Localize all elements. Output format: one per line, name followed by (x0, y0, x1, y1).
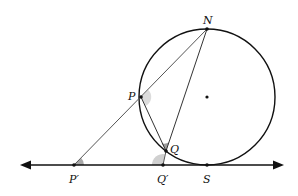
left-arrow-icon (20, 161, 31, 170)
label-s: S (203, 173, 211, 186)
point-n (205, 27, 209, 31)
right-arrow-icon (273, 161, 284, 170)
point-p-prime (72, 163, 76, 167)
point-q (164, 149, 168, 153)
label-p-prime: P′ (68, 173, 79, 186)
labels: N P Q P′ Q′ S (68, 14, 213, 186)
tangent-line (20, 161, 284, 170)
label-p: P (127, 90, 136, 103)
geometry-diagram: N P Q P′ Q′ S (0, 0, 298, 196)
segment-n-q (166, 29, 207, 151)
point-s (205, 163, 209, 167)
label-n: N (202, 14, 213, 27)
point-q-prime (161, 163, 165, 167)
label-q-prime: Q′ (157, 173, 169, 186)
label-q: Q (170, 143, 179, 156)
circle-center-dot (205, 95, 208, 98)
point-p (139, 95, 143, 99)
